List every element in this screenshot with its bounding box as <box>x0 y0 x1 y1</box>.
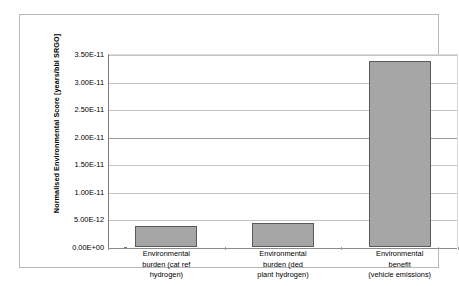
x-axis-label-line: burden (ded <box>225 260 342 271</box>
y-axis-tick-label: 0.00E+00 <box>40 243 104 252</box>
x-axis-category-label: Environmentalburden (dedplant hydrogen) <box>225 249 342 281</box>
y-axis-tick-label: 3.50E-11 <box>40 50 104 59</box>
x-axis-label-line: benefit <box>341 260 458 271</box>
x-axis-label-line: Environmental <box>225 249 342 260</box>
y-axis-tick-label: 1.00E-11 <box>40 187 104 196</box>
y-axis-tick-label: 1.50E-11 <box>40 160 104 169</box>
y-axis-tick-label: 2.50E-11 <box>40 105 104 114</box>
x-axis-label-line: Environmental <box>341 249 458 260</box>
y-axis-tick-labels: 0.00E+005.00E-121.00E-111.50E-112.00E-11… <box>38 54 104 247</box>
chart-frame: Normalised Environmental Score [years/bb… <box>19 14 439 268</box>
x-axis-label-line: burden (cat ref <box>108 260 225 271</box>
x-axis-category-labels: Environmentalburden (cat refhydrogen)Env… <box>108 249 458 286</box>
bar <box>135 226 197 248</box>
bar <box>369 61 431 247</box>
bars-group <box>108 54 458 247</box>
x-axis-label-line: (vehicle emissions) <box>341 270 458 281</box>
y-axis-tick-label: 3.00E-11 <box>40 77 104 86</box>
x-axis-category-label: Environmentalbenefit(vehicle emissions) <box>341 249 458 281</box>
bar <box>252 223 314 247</box>
x-axis-label-line: Environmental <box>108 249 225 260</box>
y-axis-tick-label: 5.00E-12 <box>40 215 104 224</box>
x-axis-category-label: Environmentalburden (cat refhydrogen) <box>108 249 225 281</box>
y-axis-tick-label: 2.00E-11 <box>40 132 104 141</box>
x-axis-label-line: plant hydrogen) <box>225 270 342 281</box>
x-axis-label-line: hydrogen) <box>108 270 225 281</box>
